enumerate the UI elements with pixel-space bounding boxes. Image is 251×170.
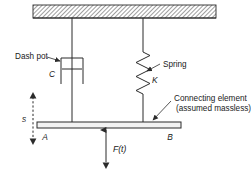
ceiling-support	[33, 5, 216, 18]
point-a-label: A	[41, 132, 48, 142]
dashpot-assembly	[61, 18, 83, 123]
connecting-element-label-line1: Connecting element	[174, 94, 248, 103]
point-b-label: B	[167, 132, 173, 142]
spring-label: Spring	[163, 60, 187, 69]
rigid-bar	[37, 122, 181, 128]
spring-constant-label: K	[152, 75, 158, 85]
leader-lines	[47, 57, 171, 120]
displacement-arrow-down	[30, 139, 37, 145]
connecting-element-leader-line	[153, 101, 171, 120]
displacement-arrow-up	[30, 92, 37, 98]
force-label: F(t)	[113, 144, 126, 154]
displacement-label: s	[22, 114, 27, 124]
dash-pot-label: Dash pot	[15, 52, 48, 61]
spring-coils	[136, 52, 150, 94]
hatched-ceiling-block	[33, 5, 216, 18]
force-arrow-tail-head	[103, 163, 110, 169]
spring-leader-line	[147, 64, 160, 71]
connecting-element-bar	[37, 122, 181, 128]
damping-coefficient-label: C	[49, 69, 56, 79]
applied-force-arrow	[103, 130, 110, 169]
dashpot-leader-line	[47, 57, 60, 61]
mechanical-system-figure: Dash pot C Spring K Connecting element (…	[0, 0, 251, 170]
displacement-dimension	[30, 92, 37, 145]
figure-canvas: Dash pot C Spring K Connecting element (…	[0, 0, 251, 170]
connecting-element-label-line2: (assumed massless)	[176, 104, 251, 113]
